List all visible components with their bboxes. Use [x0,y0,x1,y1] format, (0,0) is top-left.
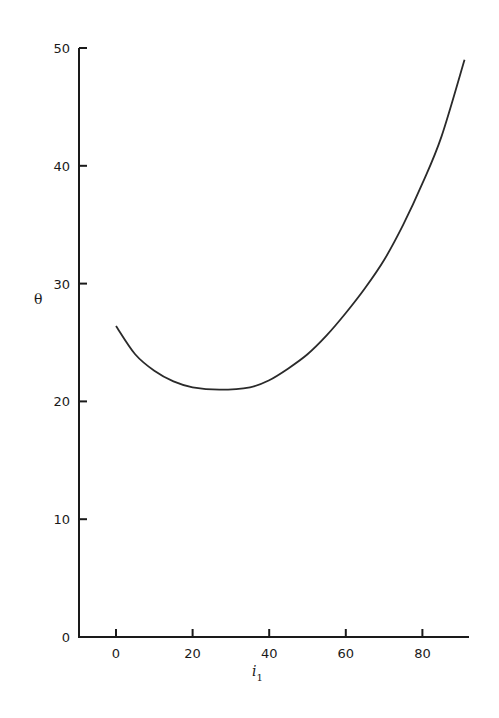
x-axis: 020406080 [78,629,469,661]
y-tick-label: 30 [53,277,70,292]
y-tick-label: 50 [53,41,70,56]
y-tick-label: 0 [62,630,70,645]
y-axis-label: θ [34,291,42,307]
y-tick-label: 20 [53,394,70,409]
x-tick-label: 0 [112,646,120,661]
data-series-line [116,60,465,390]
x-tick-label: 80 [414,646,431,661]
y-tick-label: 40 [53,159,70,174]
x-axis-label: i1 [252,663,263,683]
y-axis: 01020304050 [53,41,87,645]
line-chart: 01020304050 020406080 θ i1 [0,0,499,718]
y-tick-label: 10 [53,512,70,527]
x-tick-label: 20 [184,646,201,661]
x-axis-label-subscript: 1 [256,672,262,683]
x-tick-label: 40 [261,646,278,661]
x-tick-label: 60 [338,646,355,661]
